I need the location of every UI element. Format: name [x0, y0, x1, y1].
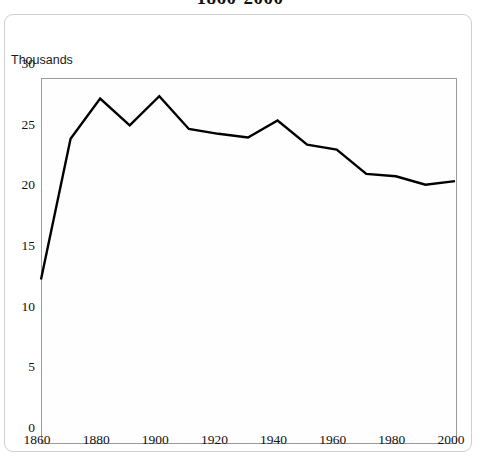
chart-title: 1860-2000: [0, 0, 480, 9]
y-tick-20: 20: [5, 177, 35, 193]
x-tick-1960: 1960: [303, 432, 363, 448]
x-tick-2000: 2000: [421, 432, 480, 448]
y-tick-30: 30: [5, 56, 35, 72]
x-tick-1920: 1920: [184, 432, 244, 448]
y-tick-25: 25: [5, 117, 35, 133]
x-tick-1860: 1860: [7, 432, 67, 448]
y-tick-5: 5: [5, 359, 35, 375]
x-tick-1900: 1900: [125, 432, 185, 448]
y-tick-10: 10: [5, 299, 35, 315]
x-tick-1940: 1940: [244, 432, 304, 448]
x-tick-1980: 1980: [362, 432, 422, 448]
line-chart-plot: [41, 78, 455, 442]
data-series-line: [41, 96, 455, 279]
x-tick-1880: 1880: [66, 432, 126, 448]
chart-panel: Thousands 051015202530 18601880190019201…: [4, 14, 472, 452]
y-tick-15: 15: [5, 238, 35, 254]
